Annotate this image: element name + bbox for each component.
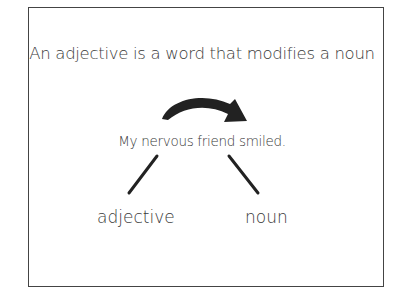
diagram-graphics: [0, 0, 404, 298]
label-adjective: adjective: [97, 207, 175, 227]
curved-arrow-icon: [162, 98, 247, 122]
connector-adjective: [129, 156, 157, 193]
connector-noun: [229, 156, 258, 193]
example-sentence: My nervous friend smiled.: [0, 133, 404, 149]
label-noun: noun: [245, 207, 288, 227]
